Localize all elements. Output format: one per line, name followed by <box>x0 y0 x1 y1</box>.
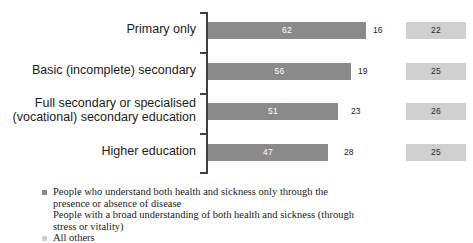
category-label: Full secondary or specialised (vocationa… <box>0 96 196 124</box>
legend-label-line1: People who understand both health and si… <box>53 186 462 198</box>
category-label: Basic (incomplete) secondary <box>0 63 196 77</box>
bar-series-1: 51 <box>208 103 338 120</box>
chart-legend: People who understand both health and si… <box>42 186 462 243</box>
category-label-line1: Higher education <box>0 144 196 158</box>
category-label: Higher education <box>0 144 196 158</box>
bar-series-3: 25 <box>406 63 466 80</box>
bar-series-3: 22 <box>406 22 466 39</box>
chart-row-higher-education: Higher education 47 28 25 <box>0 136 473 176</box>
horizontal-bar-chart: Primary only 62 16 22 Basic (incomplete)… <box>0 0 473 243</box>
chart-row-basic-incomplete-secondary: Basic (incomplete) secondary 56 19 25 <box>0 55 473 95</box>
legend-label-line2: stress or vitality) <box>53 221 462 233</box>
legend-item-1: People with a broad understanding of bot… <box>42 209 462 232</box>
value-series-2: 19 <box>358 63 367 80</box>
category-label-line1: Full secondary or specialised <box>0 96 196 110</box>
value-series-2: 23 <box>351 103 360 120</box>
bar-series-1: 62 <box>208 22 366 39</box>
bar-series-1: 56 <box>208 63 351 80</box>
category-label: Primary only <box>0 22 196 36</box>
category-label-line1: Basic (incomplete) secondary <box>0 63 196 77</box>
chart-row-full-secondary: Full secondary or specialised (vocationa… <box>0 95 473 135</box>
legend-label-line1: People with a broad understanding of bot… <box>53 209 462 221</box>
legend-label-line2: presence or absence of disease <box>53 198 462 210</box>
legend-label-line1: All others <box>53 232 462 243</box>
chart-row-primary-only: Primary only 62 16 22 <box>0 14 473 54</box>
legend-swatch-square-icon <box>42 190 47 195</box>
value-series-2: 16 <box>373 22 382 39</box>
bar-series-3: 26 <box>406 103 466 120</box>
bar-series-3: 25 <box>406 144 466 161</box>
value-series-2: 28 <box>344 144 353 161</box>
legend-item-2: All others <box>42 232 462 243</box>
category-label-line2: (vocational) secondary education <box>0 110 196 124</box>
legend-swatch-square-icon <box>42 236 47 241</box>
category-label-line1: Primary only <box>0 22 196 36</box>
plot-area: Primary only 62 16 22 Basic (incomplete)… <box>0 0 473 185</box>
bar-series-1: 47 <box>208 144 328 161</box>
legend-item-0: People who understand both health and si… <box>42 186 462 209</box>
